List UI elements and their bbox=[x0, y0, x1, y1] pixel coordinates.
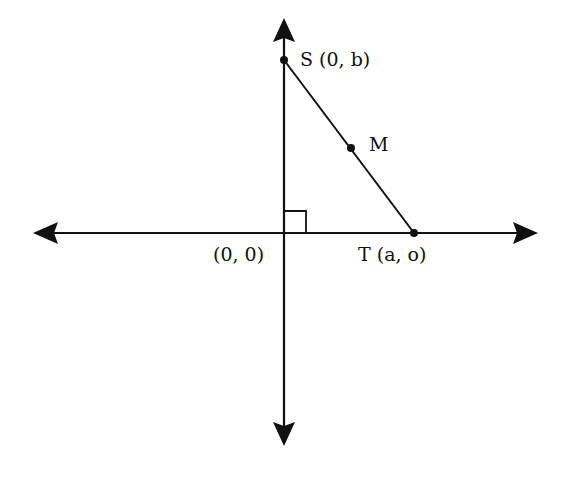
label-origin: (0, 0) bbox=[213, 243, 264, 265]
label-T: T (a, o) bbox=[358, 243, 426, 265]
point-T bbox=[410, 229, 418, 237]
right-angle-marker bbox=[284, 211, 306, 233]
coordinate-diagram bbox=[0, 0, 566, 480]
point-M bbox=[347, 144, 355, 152]
point-S bbox=[280, 56, 288, 64]
label-M: M bbox=[369, 133, 388, 155]
label-S: S (0, b) bbox=[300, 48, 370, 70]
